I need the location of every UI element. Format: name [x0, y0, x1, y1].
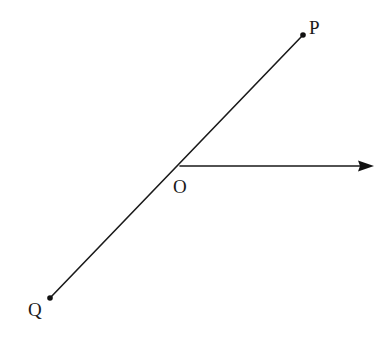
label-p: P — [309, 17, 320, 38]
geometry-diagram: P O Q — [0, 0, 392, 337]
label-q: Q — [28, 299, 42, 320]
point-q-dot — [47, 295, 53, 301]
label-o: O — [173, 176, 187, 197]
point-p-dot — [300, 32, 306, 38]
arrowhead-icon — [358, 161, 374, 172]
